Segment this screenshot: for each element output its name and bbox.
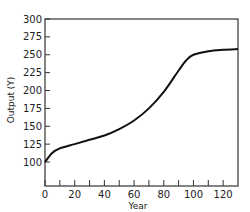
output-curve	[45, 49, 238, 162]
y-tick-label: 275	[23, 31, 42, 42]
y-tick-label: 125	[23, 139, 42, 150]
plot-axes	[45, 19, 238, 186]
x-tick-label: 120	[214, 189, 233, 200]
x-tick-label: 60	[128, 189, 141, 200]
y-tick-label: 175	[23, 103, 42, 114]
y-tick-label: 150	[23, 121, 42, 132]
x-tick-label: 40	[98, 189, 111, 200]
x-tick-label: 0	[42, 189, 48, 200]
y-tick-label: 100	[23, 157, 42, 168]
y-tick-label: 225	[23, 67, 42, 78]
y-tick-label: 250	[23, 49, 42, 60]
x-axis-label: Year	[127, 201, 147, 211]
y-tick-label: 300	[23, 14, 42, 25]
y-axis-label: Output (Y)	[6, 77, 16, 124]
tick-labels: 1001251501752002252502753000204060801001…	[23, 14, 233, 201]
x-tick-label: 20	[68, 189, 81, 200]
x-tick-label: 100	[184, 189, 203, 200]
x-tick-label: 80	[157, 189, 170, 200]
chart: 1001251501752002252502753000204060801001…	[0, 0, 250, 212]
y-tick-label: 200	[23, 85, 42, 96]
tick-marks	[45, 19, 223, 186]
